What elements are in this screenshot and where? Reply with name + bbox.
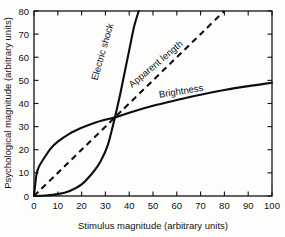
x-tick-label: 20	[76, 200, 87, 211]
y-tick-label: 0	[24, 191, 29, 202]
y-tick-label: 70	[18, 29, 29, 40]
x-tick-label: 0	[31, 200, 36, 211]
y-tick-label: 30	[18, 121, 29, 132]
x-axis-title: Stimulus magnitude (arbitrary units)	[78, 220, 228, 231]
y-axis-tick-labels: 01020304050607080	[18, 6, 29, 202]
y-tick-label: 50	[18, 75, 29, 86]
chart-figure: 0102030405060708090100 01020304050607080…	[0, 0, 285, 237]
x-tick-label: 100	[264, 200, 280, 211]
x-tick-label: 50	[148, 200, 159, 211]
x-tick-label: 10	[53, 200, 64, 211]
x-tick-label: 40	[124, 200, 135, 211]
stevens-power-law-chart: 0102030405060708090100 01020304050607080…	[0, 0, 285, 237]
x-tick-label: 90	[243, 200, 254, 211]
y-tick-label: 60	[18, 52, 29, 63]
x-tick-label: 30	[100, 200, 111, 211]
x-tick-label: 80	[219, 200, 230, 211]
x-tick-label: 70	[195, 200, 206, 211]
y-tick-label: 40	[18, 98, 29, 109]
x-tick-label: 60	[172, 200, 183, 211]
y-axis-title: Psychological magnitude (arbitrary units…	[2, 17, 13, 189]
y-tick-label: 10	[18, 167, 29, 178]
y-tick-label: 20	[18, 144, 29, 155]
y-tick-label: 80	[18, 6, 29, 17]
